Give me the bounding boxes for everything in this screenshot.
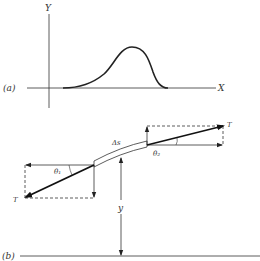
- theta2-label: θ₂: [153, 150, 160, 158]
- panel-a-label: (a): [3, 83, 16, 93]
- x-axis-label: X: [217, 83, 225, 93]
- string-tension-diagram: Y X (a) T θ₁ T: [0, 0, 260, 261]
- right-tension-vector: [147, 126, 223, 145]
- theta1-arc: [69, 165, 72, 175]
- pulse-curve: [63, 47, 168, 88]
- theta2-arc: [176, 138, 177, 145]
- tension-left-label: T: [13, 196, 19, 204]
- panel-b: T θ₁ T θ₂ Δs y (b): [2, 121, 260, 261]
- diagram-canvas: Y X (a) T θ₁ T: [0, 0, 260, 261]
- panel-a: Y X (a): [3, 3, 225, 108]
- panel-b-label: (b): [2, 251, 15, 261]
- theta1-label: θ₁: [54, 168, 61, 176]
- segment-label: Δs: [111, 139, 121, 147]
- tension-right-label: T: [227, 121, 233, 129]
- height-label: y: [117, 203, 124, 213]
- y-axis-label: Y: [45, 3, 52, 13]
